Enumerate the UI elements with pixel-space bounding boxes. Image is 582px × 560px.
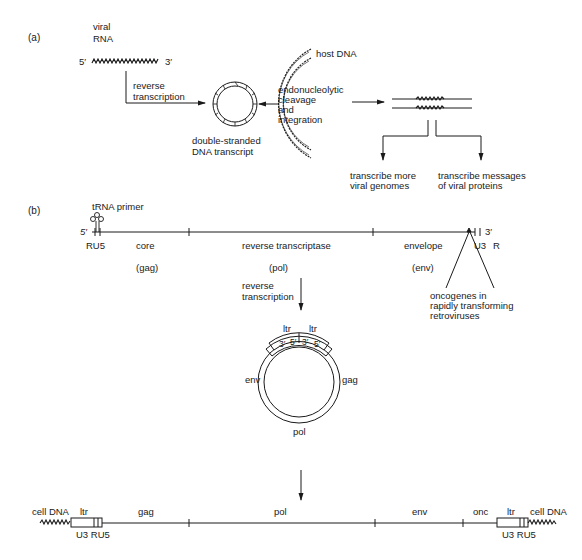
provirus-segment-gag: gag bbox=[138, 506, 154, 517]
outcome-right-line2: of viral proteins bbox=[438, 180, 502, 191]
circle-box-3prime-a: 3′ bbox=[279, 339, 285, 350]
gene-core-code: (gag) bbox=[136, 262, 158, 273]
reverse-transcription-label-line1: reverse bbox=[133, 80, 165, 91]
viral-rna-3prime: 3′ bbox=[165, 56, 172, 67]
viral-rna-zigzag-icon bbox=[92, 59, 158, 63]
ds-dna-label-line2: DNA transcript bbox=[192, 146, 253, 157]
gene-pol-name: reverse transcriptase bbox=[242, 240, 331, 251]
u3-label: U3 bbox=[474, 240, 486, 251]
provirus-segment-env: env bbox=[412, 506, 427, 517]
reverse-transcription-b-line1: reverse bbox=[242, 280, 274, 291]
circle-box-3prime-b: 3′ bbox=[302, 337, 308, 348]
ltr-left-box bbox=[71, 518, 102, 527]
circle-ltr-left: ltr bbox=[283, 323, 291, 334]
gene-env-code: (env) bbox=[412, 262, 434, 273]
circle-ltr-right: ltr bbox=[309, 323, 317, 334]
circle-pol-label: pol bbox=[293, 426, 306, 437]
ds-dna-label-line1: double-stranded bbox=[192, 135, 261, 146]
ltr-right-box bbox=[497, 518, 528, 527]
provirus-ltr-left: ltr bbox=[80, 506, 88, 517]
oncogenes-label-line3: retroviruses bbox=[430, 310, 480, 321]
cell-dna-left-zigzag-icon bbox=[40, 520, 70, 524]
provirus-cell-dna-right: cell DNA bbox=[530, 506, 567, 517]
genome-3prime: 3′ bbox=[485, 226, 492, 237]
circle-env-label: env bbox=[245, 374, 260, 385]
viral-rna-label-line1: viral bbox=[93, 21, 110, 32]
circle-gag-label: gag bbox=[342, 374, 358, 385]
transcribe-messages-arrow bbox=[436, 120, 481, 160]
reverse-transcription-b-line2: transcription bbox=[242, 291, 294, 302]
circle-box-5prime-a: 5′ bbox=[290, 337, 296, 348]
outcome-left-line2: viral genomes bbox=[350, 180, 409, 191]
retrovirus-life-cycle-diagram: (a) viral RNA 5′ 3′ reverse transcriptio… bbox=[0, 0, 582, 560]
circle-box-5prime-b: 5′ bbox=[314, 339, 320, 350]
transcribe-genomes-arrow bbox=[383, 120, 428, 160]
ru5-label: RU5 bbox=[86, 240, 105, 251]
trna-primer-icon bbox=[91, 213, 104, 233]
cell-dna-right-zigzag-icon bbox=[528, 520, 556, 524]
reverse-transcription-label-line2: transcription bbox=[133, 91, 185, 102]
provirus-segment-onc: onc bbox=[473, 506, 488, 517]
provirus-ltr-right-sub: U3 RU5 bbox=[502, 529, 536, 540]
integrated-dna-icon bbox=[392, 97, 472, 109]
provirus-cell-dna-left: cell DNA bbox=[32, 506, 69, 517]
r-label: R bbox=[493, 240, 500, 251]
viral-rna-5prime: 5′ bbox=[79, 56, 86, 67]
provirus-segment-pol: pol bbox=[274, 506, 287, 517]
provirus-ltr-left-sub: U3 RU5 bbox=[76, 529, 110, 540]
circular-dna-icon bbox=[258, 333, 340, 423]
integration-label-line4: integration bbox=[278, 114, 322, 125]
viral-rna-label-line2: RNA bbox=[93, 33, 113, 44]
panel-b-label: (b) bbox=[28, 205, 40, 216]
trna-primer-label: tRNA primer bbox=[92, 201, 144, 212]
host-dna-label: host DNA bbox=[316, 48, 357, 59]
gene-pol-code: (pol) bbox=[269, 262, 288, 273]
genome-5prime: 5′ bbox=[80, 226, 87, 237]
gene-env-name: envelope bbox=[404, 240, 443, 251]
gene-core-name: core bbox=[136, 240, 154, 251]
ds-dna-circle-icon bbox=[213, 82, 257, 126]
provirus-ltr-right: ltr bbox=[507, 506, 515, 517]
oncogene-insert-left-line bbox=[446, 232, 469, 288]
panel-a-label: (a) bbox=[28, 32, 40, 43]
